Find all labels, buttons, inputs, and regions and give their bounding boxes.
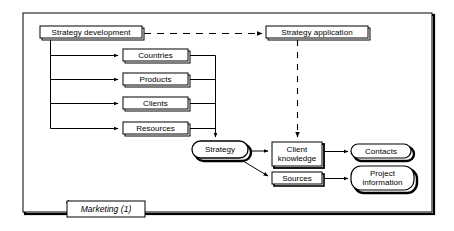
node-strategy[interactable]: [192, 141, 251, 161]
frame-title-plate: [66, 200, 145, 217]
node-contacts[interactable]: [351, 144, 414, 161]
node-products[interactable]: [123, 73, 190, 87]
node-project-information[interactable]: [351, 166, 417, 193]
node-sources[interactable]: [272, 172, 324, 186]
node-resources[interactable]: [123, 122, 190, 136]
node-clients[interactable]: [123, 97, 190, 111]
diagram-canvas: Strategy development Strategy applicatio…: [0, 0, 454, 231]
node-countries[interactable]: [123, 49, 190, 63]
node-client-knowledge[interactable]: [272, 142, 324, 168]
node-strategy-application[interactable]: [266, 26, 370, 40]
node-strategy-development[interactable]: [40, 26, 144, 40]
diagram-graphics: [0, 0, 454, 231]
